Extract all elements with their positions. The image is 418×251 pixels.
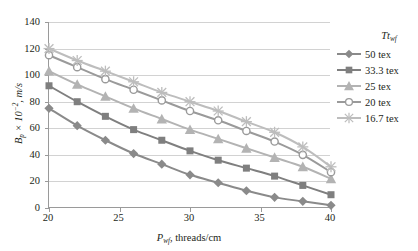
- y-axis-units: , m/s: [13, 83, 24, 103]
- data-point-circle: [215, 117, 222, 124]
- legend-item-20-tex[interactable]: 20 tex: [336, 94, 416, 110]
- data-point-x: [213, 106, 224, 117]
- y-tick-label: 0: [6, 203, 40, 213]
- data-point-square: [215, 157, 222, 164]
- data-point-x: [269, 127, 280, 138]
- data-point-x: [128, 76, 139, 87]
- x-tick-label: 30: [172, 213, 206, 223]
- y-tick-label: 140: [6, 17, 40, 27]
- legend-item-label: 25 tex: [365, 81, 391, 92]
- series-25-tex: [44, 66, 336, 183]
- data-point-square: [187, 147, 194, 154]
- x-axis-subscript: wf: [163, 237, 170, 245]
- data-point-x: [156, 87, 167, 98]
- data-point-square: [243, 165, 250, 172]
- data-point-diamond: [345, 50, 354, 59]
- legend-title: Ttwf: [362, 30, 416, 41]
- legend-item-16.7-tex[interactable]: 16.7 tex: [336, 110, 416, 126]
- data-point-x: [100, 66, 111, 77]
- data-point-square: [158, 137, 165, 144]
- legend-marker-x-icon: [336, 111, 362, 125]
- y-axis-subscript: p: [18, 134, 26, 138]
- x-tick-label: 35: [243, 213, 277, 223]
- legend-item-50-tex[interactable]: 50 tex: [336, 46, 416, 62]
- y-axis-title: Bp × 10−2, m/s: [13, 44, 24, 184]
- data-point-circle: [271, 138, 278, 145]
- legend-item-33.3-tex[interactable]: 33.3 tex: [336, 62, 416, 78]
- data-point-diamond: [242, 186, 251, 195]
- x-tick-label: 40: [313, 213, 347, 223]
- data-point-square: [328, 191, 335, 198]
- legend-item-label: 20 tex: [365, 97, 391, 108]
- series-line: [49, 108, 331, 205]
- legend-item-label: 16.7 tex: [365, 113, 399, 124]
- data-point-diamond: [214, 178, 223, 187]
- data-point-x: [344, 113, 354, 123]
- data-point-x: [241, 116, 252, 127]
- data-point-square: [346, 67, 353, 74]
- data-point-x: [72, 55, 83, 66]
- y-axis-symbol: B: [13, 138, 24, 144]
- data-point-diamond: [73, 121, 82, 130]
- data-point-diamond: [298, 197, 307, 206]
- legend: Ttwf 50 tex33.3 tex25 tex20 tex16.7 tex: [336, 30, 416, 126]
- data-series-layer: [49, 22, 331, 208]
- data-point-x: [185, 96, 196, 107]
- y-axis-exponent: −2: [12, 103, 20, 111]
- data-point-triangle: [128, 103, 138, 113]
- legend-marker-square-icon: [336, 63, 362, 77]
- plot-area: [48, 22, 330, 208]
- series-50-tex: [44, 104, 335, 210]
- legend-marker-circle-icon: [336, 95, 362, 109]
- legend-items: 50 tex33.3 tex25 tex20 tex16.7 tex: [336, 46, 416, 126]
- data-point-square: [299, 182, 306, 189]
- y-axis-mid: × 10: [13, 111, 24, 134]
- data-point-diamond: [270, 193, 279, 202]
- data-point-diamond: [157, 160, 166, 169]
- legend-title-main: Tt: [381, 30, 390, 41]
- data-point-triangle: [44, 66, 54, 76]
- legend-item-label: 50 tex: [365, 49, 391, 60]
- data-point-circle: [186, 107, 193, 114]
- data-point-square: [102, 113, 109, 120]
- chart-container: 020406080100120140 2025303540 Pwf, threa…: [0, 0, 418, 251]
- data-point-x: [44, 43, 55, 54]
- legend-marker-diamond-icon: [336, 47, 362, 61]
- x-tick-label: 20: [31, 213, 65, 223]
- data-point-diamond: [44, 104, 53, 113]
- data-point-diamond: [101, 136, 110, 145]
- data-point-circle: [243, 127, 250, 134]
- data-point-diamond: [185, 170, 194, 179]
- data-point-circle: [346, 99, 353, 106]
- x-axis-units: , threads/cm: [170, 232, 221, 243]
- data-point-diamond: [129, 149, 138, 158]
- data-point-triangle: [100, 91, 110, 101]
- data-point-square: [46, 82, 53, 89]
- data-point-square: [271, 173, 278, 180]
- legend-title-subscript: wf: [390, 35, 397, 43]
- legend-item-25-tex[interactable]: 25 tex: [336, 78, 416, 94]
- x-axis-title: Pwf, threads/cm: [48, 232, 330, 243]
- data-point-square: [130, 126, 137, 133]
- data-point-diamond: [326, 201, 335, 210]
- data-point-square: [74, 98, 81, 105]
- data-point-x: [297, 141, 308, 152]
- legend-marker-triangle-icon: [336, 79, 362, 93]
- data-point-triangle: [72, 79, 82, 89]
- series-20-tex: [45, 52, 334, 176]
- legend-item-label: 33.3 tex: [365, 65, 399, 76]
- x-tick-label: 25: [102, 213, 136, 223]
- data-point-x: [326, 161, 337, 172]
